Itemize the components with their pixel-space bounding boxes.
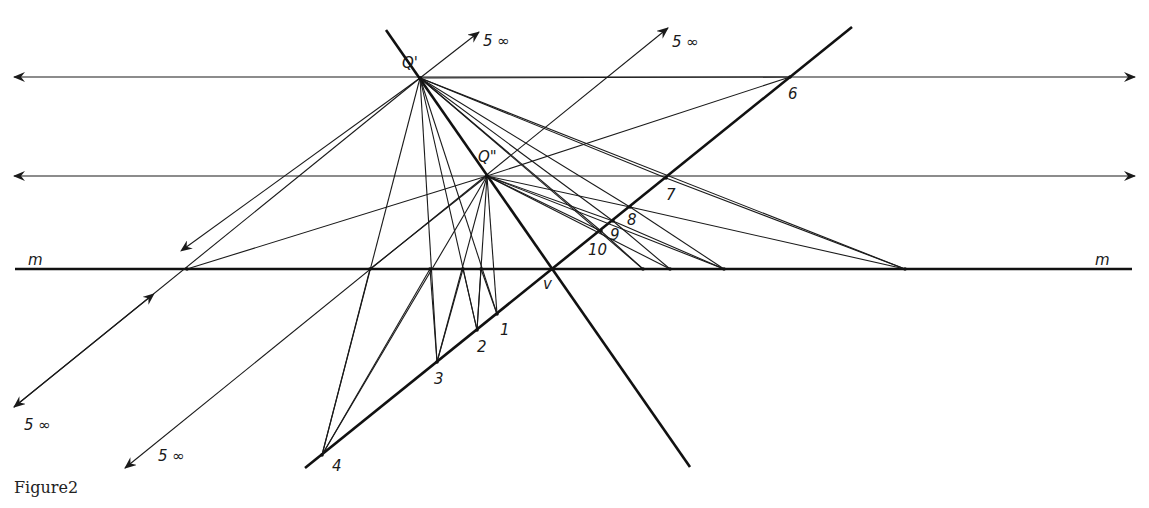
projective-construction-diagram: Q' Q" m m v 1 2 3 4 6 7 8 9 10 5 ∞ 5 ∞ 5… xyxy=(0,0,1149,508)
mid-arrow-down xyxy=(185,78,420,248)
rays-from-q-prime xyxy=(322,77,905,455)
label-inf-bottom-left: 5 ∞ xyxy=(24,416,51,434)
label-point-1: 1 xyxy=(500,321,510,339)
label-point-9: 9 xyxy=(610,226,620,244)
line-q-prime-to-v xyxy=(386,30,690,467)
label-inf-top-left: 5 ∞ xyxy=(483,32,510,50)
label-q-double-prime: Q" xyxy=(478,148,497,166)
construction-points xyxy=(185,75,907,457)
rays-from-q-double-prime xyxy=(187,77,790,455)
label-point-8: 8 xyxy=(627,211,637,229)
figure-caption: Figure2 xyxy=(14,478,78,497)
label-v: v xyxy=(543,275,553,293)
range-line-diagonal xyxy=(305,27,852,468)
label-point-4: 4 xyxy=(332,457,342,475)
label-point-3: 3 xyxy=(434,370,444,388)
label-point-10: 10 xyxy=(588,241,607,259)
label-point-2: 2 xyxy=(477,338,487,356)
label-q-prime: Q' xyxy=(402,54,418,72)
ray-q-prime-infinity xyxy=(420,32,479,78)
mid-arrow-up xyxy=(14,297,150,407)
label-point-6: 6 xyxy=(788,85,798,103)
label-m-right: m xyxy=(1095,251,1110,269)
label-point-7: 7 xyxy=(666,186,676,204)
label-inf-bottom-mid: 5 ∞ xyxy=(158,447,185,465)
label-m-left: m xyxy=(28,251,43,269)
label-inf-top-right: 5 ∞ xyxy=(672,33,699,51)
